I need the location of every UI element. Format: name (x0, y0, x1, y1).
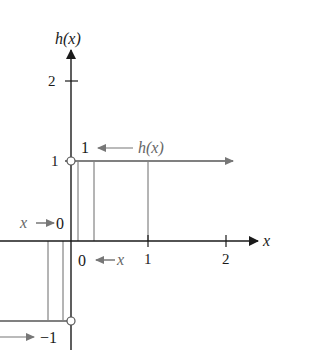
left-approach-target: 0 (56, 215, 64, 232)
lower-guide-lines (48, 241, 63, 321)
x-tick-1: 1 (144, 251, 152, 267)
upper-limit-value: 1 (81, 139, 89, 156)
y-tick-2: 2 (48, 73, 56, 89)
axis-ticks (65, 81, 226, 247)
open-circle-lower (67, 317, 75, 325)
upper-guide-lines (78, 161, 148, 241)
left-approach-var: x (19, 214, 27, 231)
x-axis-label: x (262, 232, 270, 249)
right-approach-target: 0 (78, 252, 86, 269)
step-function-graph: h(x) x 2 1 1 2 1 h(x) x 0 0 x −1 (0, 0, 309, 350)
upper-limit-func: h(x) (138, 139, 164, 157)
open-circle-upper (67, 157, 75, 165)
lower-limit-value: −1 (40, 329, 57, 346)
y-tick-1: 1 (51, 153, 59, 169)
right-approach-var: x (116, 251, 124, 268)
y-axis-label: h(x) (55, 30, 81, 48)
x-tick-2: 2 (222, 251, 230, 267)
